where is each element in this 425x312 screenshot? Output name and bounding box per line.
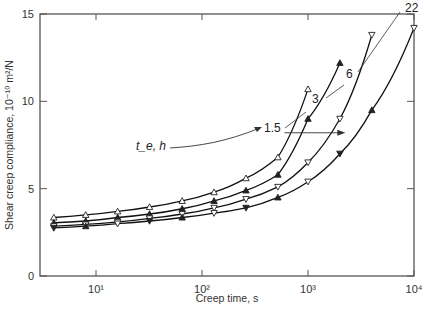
curve-label-22: 22 xyxy=(405,1,419,15)
x-tick-label: 10³ xyxy=(300,283,316,295)
y-tick-label: 15 xyxy=(22,8,34,20)
creep-compliance-chart: 10¹10²10³10⁴051015 t_e, h1.53622 Creep t… xyxy=(0,0,425,312)
x-tick-label: 10¹ xyxy=(88,283,104,295)
series-curve-6 xyxy=(54,35,372,226)
curve-label-6: 6 xyxy=(346,67,353,81)
curve-label-1.5: 1.5 xyxy=(264,121,281,135)
te-label: t_e, h xyxy=(136,139,166,153)
y-tick-label: 10 xyxy=(22,95,34,107)
series-curve-1.5 xyxy=(54,89,308,217)
curve-label-3: 3 xyxy=(312,92,319,106)
annotations: t_e, h1.53622 xyxy=(136,1,419,153)
data-markers xyxy=(51,25,418,231)
x-tick-label: 10⁴ xyxy=(406,283,423,295)
plot-frame xyxy=(40,14,414,276)
data-series xyxy=(54,28,414,228)
y-axis-title: Shear creep compliance, 10⁻¹⁰ m²/N xyxy=(3,60,15,230)
y-tick-label: 0 xyxy=(28,270,34,282)
axis-ticks: 10¹10²10³10⁴051015 xyxy=(22,8,423,295)
series-curve-22 xyxy=(54,28,414,228)
x-axis-title: Creep time, s xyxy=(196,292,258,304)
y-tick-label: 5 xyxy=(28,183,34,195)
series-curve-3 xyxy=(54,63,340,223)
